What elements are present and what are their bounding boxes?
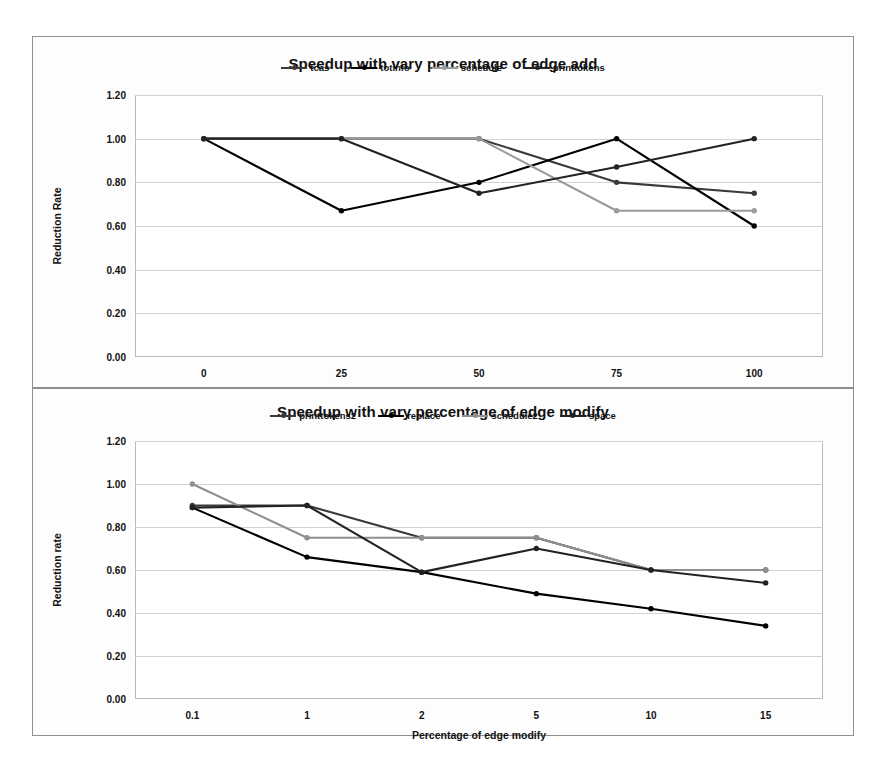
- data-point: [763, 623, 768, 628]
- series-layer: [135, 441, 823, 699]
- x-axis-tick-label: 0: [201, 368, 207, 379]
- legend-item-space[interactable]: space: [560, 411, 616, 421]
- series-line: [192, 484, 765, 570]
- y-axis-title: Reduction rate: [51, 500, 63, 640]
- y-axis-tick-label: 0.40: [107, 608, 126, 619]
- legend-marker-icon: [378, 411, 404, 420]
- legend-label: replace: [407, 411, 440, 421]
- legend-label: schedule: [461, 63, 502, 73]
- legend-item-printtokens[interactable]: printtokens: [524, 63, 605, 73]
- legend-item-tcas[interactable]: tcas: [281, 63, 329, 73]
- data-point: [476, 191, 481, 196]
- data-point: [614, 164, 619, 169]
- legend-marker-icon: [560, 411, 586, 420]
- data-point: [190, 481, 195, 486]
- legend-item-replace[interactable]: replace: [378, 411, 440, 421]
- legend-item-printtokens2[interactable]: printtokens2: [270, 411, 356, 421]
- y-axis-tick-label: 0.80: [107, 177, 126, 188]
- y-axis-tick-label: 0.20: [107, 651, 126, 662]
- chart-panel-edge-modify: Speedup with vary percentage of edge mod…: [32, 388, 854, 736]
- y-axis-tick-label: 0.60: [107, 221, 126, 232]
- data-point: [190, 505, 195, 510]
- legend-marker-icon: [281, 63, 307, 72]
- x-axis-tick-label: 2: [419, 710, 425, 721]
- data-point: [304, 503, 309, 508]
- y-axis-tick-label: 0.20: [107, 308, 126, 319]
- legend-item-schedule[interactable]: schedule: [432, 63, 502, 73]
- x-axis-title: Percentage of edge modify: [135, 729, 823, 741]
- y-axis-tick-label: 1.00: [107, 479, 126, 490]
- data-point: [648, 567, 653, 572]
- legend-marker-icon: [351, 63, 377, 72]
- plot-area-wrapper: Reduction rate Percentage of edge modify…: [135, 441, 823, 699]
- x-axis-tick-label: 15: [760, 710, 771, 721]
- x-axis-tick-label: 5: [534, 710, 540, 721]
- legend-label: space: [589, 411, 616, 421]
- data-point: [752, 136, 757, 141]
- y-axis-tick-label: 0.80: [107, 522, 126, 533]
- data-point: [476, 180, 481, 185]
- plot-area-wrapper: Reduction Rate Percentage of edge add 0.…: [135, 95, 823, 357]
- data-point: [648, 606, 653, 611]
- data-point: [419, 535, 424, 540]
- data-point: [419, 569, 424, 574]
- x-axis-tick-label: 1: [304, 710, 310, 721]
- legend-item-schedule2[interactable]: schedule2: [462, 411, 537, 421]
- legend-marker-icon: [462, 411, 488, 420]
- y-axis-tick-label: 0.40: [107, 264, 126, 275]
- y-axis-tick-label: 0.00: [107, 694, 126, 705]
- x-axis-tick-label: 25: [336, 368, 347, 379]
- data-point: [304, 535, 309, 540]
- y-axis-tick-label: 1.20: [107, 90, 126, 101]
- figure-page: Speedup with vary percentage of edge add…: [0, 0, 886, 774]
- legend-label: schedule2: [491, 411, 537, 421]
- data-point: [614, 180, 619, 185]
- data-point: [534, 591, 539, 596]
- x-axis-tick-label: 10: [645, 710, 656, 721]
- data-point: [752, 191, 757, 196]
- series-schedule2: [190, 481, 769, 572]
- y-axis-tick-label: 1.20: [107, 436, 126, 447]
- legend-item-totinfo[interactable]: totinfo: [351, 63, 410, 73]
- data-point: [752, 223, 757, 228]
- legend-marker-icon: [432, 63, 458, 72]
- data-point: [614, 136, 619, 141]
- data-point: [339, 208, 344, 213]
- data-point: [476, 136, 481, 141]
- legend-marker-icon: [270, 411, 296, 420]
- series-tcas: [201, 136, 757, 196]
- chart-panel-edge-add: Speedup with vary percentage of edge add…: [32, 36, 854, 388]
- data-point: [201, 136, 206, 141]
- chart-legend: printtokens2replaceschedule2space: [33, 411, 853, 421]
- series-layer: [135, 95, 823, 357]
- series-line: [204, 139, 754, 194]
- y-axis-title: Reduction Rate: [51, 156, 63, 296]
- y-axis-tick-label: 1.00: [107, 133, 126, 144]
- y-axis-tick-label: 0.60: [107, 565, 126, 576]
- data-point: [304, 554, 309, 559]
- legend-marker-icon: [524, 63, 550, 72]
- legend-label: printtokens2: [299, 411, 356, 421]
- legend-label: tcas: [310, 63, 329, 73]
- y-axis-tick-label: 0.00: [107, 352, 126, 363]
- legend-label: totinfo: [380, 63, 410, 73]
- data-point: [339, 136, 344, 141]
- data-point: [534, 546, 539, 551]
- x-axis-tick-label: 100: [746, 368, 763, 379]
- data-point: [763, 567, 768, 572]
- x-axis-tick-label: 0.1: [185, 710, 199, 721]
- data-point: [763, 580, 768, 585]
- data-point: [752, 208, 757, 213]
- data-point: [614, 208, 619, 213]
- series-totinfo: [201, 136, 757, 229]
- chart-legend: tcastotinfoscheduleprinttokens: [33, 63, 853, 73]
- data-point: [534, 535, 539, 540]
- legend-label: printtokens: [553, 63, 605, 73]
- x-axis-tick-label: 75: [611, 368, 622, 379]
- x-axis-tick-label: 50: [473, 368, 484, 379]
- series-line: [204, 139, 754, 194]
